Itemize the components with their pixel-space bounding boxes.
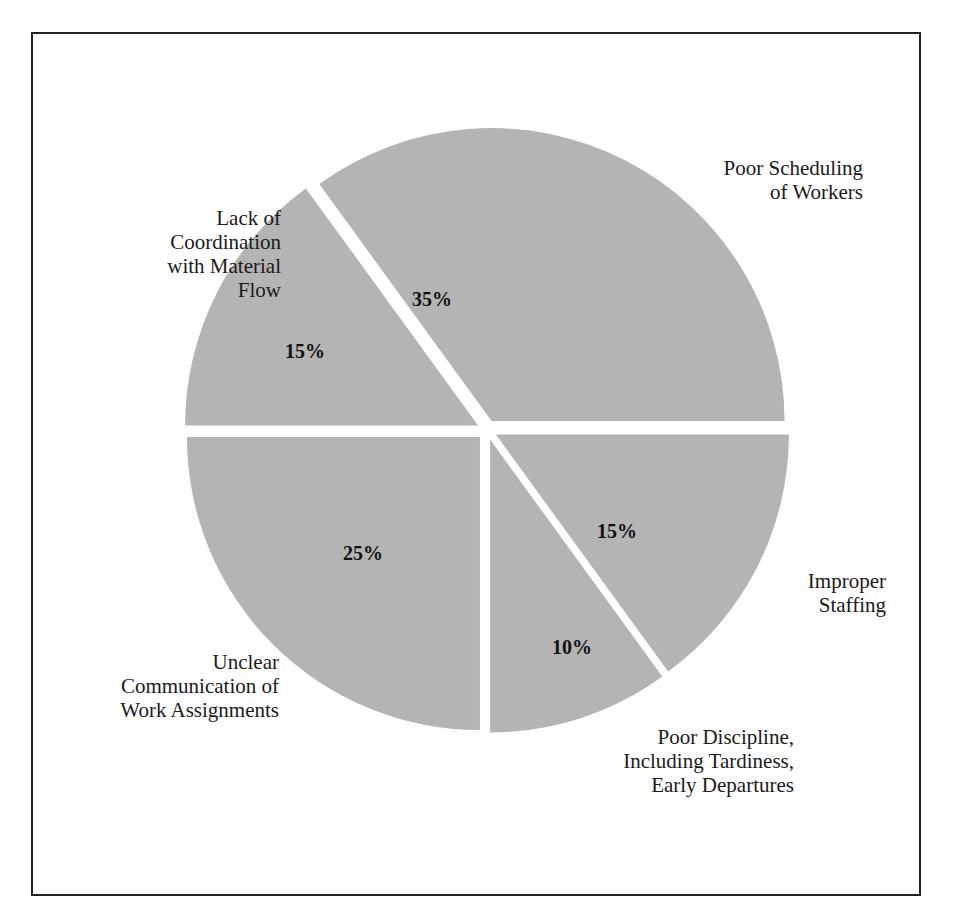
label-unclear-communication: Unclear Communication of Work Assignment… — [20, 650, 279, 722]
pie-chart: 35% 15% 10% 25% 15% — [0, 0, 953, 918]
label-improper-staffing: Improper Staffing — [700, 569, 886, 617]
pct-coordination: 15% — [285, 340, 325, 362]
label-lack-of-coordination: Lack of Coordination with Material Flow — [20, 206, 281, 302]
pct-discipline: 10% — [552, 636, 592, 658]
label-poor-scheduling: Poor Scheduling of Workers — [600, 156, 863, 204]
pct-staffing: 15% — [597, 520, 637, 542]
pct-scheduling: 35% — [412, 288, 452, 310]
label-poor-discipline: Poor Discipline, Including Tardiness, Ea… — [540, 725, 794, 797]
pct-communication: 25% — [343, 542, 383, 564]
